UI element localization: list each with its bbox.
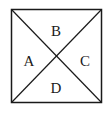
region-label-d: D [51, 80, 62, 96]
region-label-b: B [51, 23, 61, 39]
square-diagram: B A C D [0, 0, 107, 113]
region-label-a: A [24, 53, 35, 69]
region-label-c: C [80, 53, 90, 69]
